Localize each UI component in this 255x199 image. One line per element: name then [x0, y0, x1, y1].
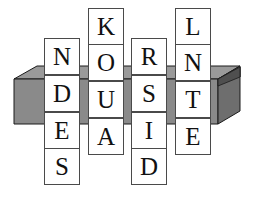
puzzle-illustration: NDESKOUARSIDLNTE — [0, 0, 255, 199]
letter-tile[interactable]: T — [175, 81, 211, 118]
letter-tile[interactable]: L — [175, 8, 211, 45]
letter-tile[interactable]: K — [88, 8, 124, 45]
letter-tile[interactable]: A — [88, 118, 124, 155]
letter-tile[interactable]: E — [44, 112, 80, 149]
letter-tile[interactable]: D — [131, 148, 167, 185]
letter-tile[interactable]: N — [44, 38, 80, 75]
letter-tile[interactable]: R — [131, 38, 167, 75]
letter-tile[interactable]: U — [88, 81, 124, 118]
open-box — [0, 55, 255, 140]
letter-tile[interactable]: D — [44, 75, 80, 112]
box-graphic — [0, 55, 255, 140]
letter-tile[interactable]: S — [44, 148, 80, 185]
letter-tile[interactable]: O — [88, 44, 124, 81]
letter-tile[interactable]: E — [175, 118, 211, 155]
letter-tile[interactable]: N — [175, 44, 211, 81]
letter-tile[interactable]: I — [131, 112, 167, 149]
letter-tile[interactable]: S — [131, 75, 167, 112]
